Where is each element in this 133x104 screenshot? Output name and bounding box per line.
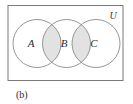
universal-set-label: U — [109, 10, 117, 21]
set-label-c: C — [90, 37, 98, 49]
set-label-b: B — [61, 37, 68, 49]
venn-diagram-figure: A B C U (b) — [0, 0, 133, 104]
venn-diagram-canvas: A B C U (b) — [0, 0, 133, 104]
figure-caption: (b) — [16, 89, 28, 101]
set-label-a: A — [27, 37, 35, 49]
